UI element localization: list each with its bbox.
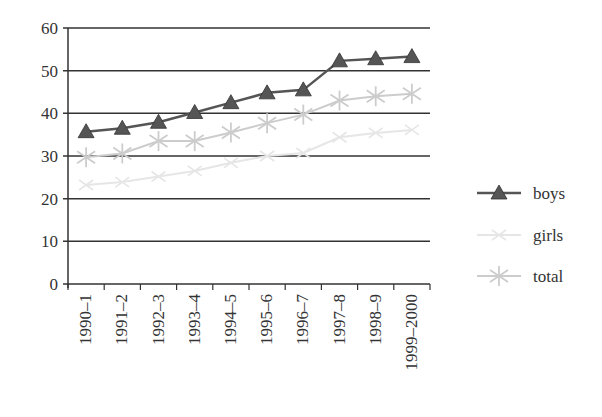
asterisk-marker <box>258 113 276 133</box>
legend-label: total <box>533 267 563 286</box>
x-tick-label: 1994–5 <box>221 294 240 345</box>
x-tick-label: 1997–8 <box>330 294 349 345</box>
y-tick-label: 40 <box>41 104 58 123</box>
series-line <box>86 57 412 132</box>
x-tick-label: 1993–4 <box>185 294 204 346</box>
y-tick-label: 30 <box>41 147 58 166</box>
series-total <box>77 84 421 168</box>
x-tick-label: 1999–2000 <box>402 294 421 371</box>
asterisk-marker <box>294 105 312 125</box>
series-line <box>86 130 412 185</box>
x-tick-label: 1998–9 <box>366 294 385 345</box>
legend: boysgirlstotal <box>477 184 565 286</box>
legend-label: boys <box>533 184 565 203</box>
series-girls <box>79 125 419 190</box>
series-group <box>77 49 421 190</box>
y-tick-label: 50 <box>41 62 58 81</box>
legend-item-girls: girls <box>477 226 563 245</box>
x-tick-label: 1995–6 <box>257 294 276 345</box>
y-tick-label: 20 <box>41 190 58 209</box>
x-tick-label: 1991–2 <box>112 294 131 345</box>
x-tick-label: 1990–1 <box>76 294 95 345</box>
x-tick-label: 1996–7 <box>293 294 312 346</box>
line-chart: 0102030405060 1990–11991–21992–31993–419… <box>0 0 602 417</box>
legend-label: girls <box>533 226 563 245</box>
legend-item-boys: boys <box>477 184 565 203</box>
x-tick-label: 1992–3 <box>149 294 168 345</box>
y-tick-label: 60 <box>41 19 58 38</box>
y-tick-label: 10 <box>41 232 58 251</box>
series-boys <box>78 49 420 138</box>
x-axis: 1990–11991–21992–31993–41994–51995–61996… <box>68 284 430 371</box>
asterisk-marker <box>222 123 240 143</box>
legend-item-total: total <box>477 266 563 286</box>
triangle-marker <box>404 49 420 63</box>
y-tick-label: 0 <box>50 275 59 294</box>
